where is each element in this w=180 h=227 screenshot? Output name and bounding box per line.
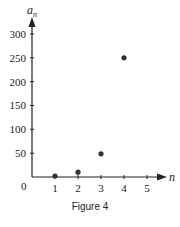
sequence-scatter-chart: an n 0 50 100 150 200 250 300 1 2 3 4 5 …	[0, 0, 180, 227]
x-axis-label: n	[169, 170, 175, 184]
figure-caption: Figure 4	[72, 201, 109, 212]
svg-text:1: 1	[52, 182, 58, 194]
y-axis-label: an	[27, 3, 37, 19]
svg-text:100: 100	[10, 123, 27, 135]
x-axis-arrow-icon	[157, 174, 167, 181]
svg-text:200: 200	[10, 76, 27, 88]
svg-text:4: 4	[121, 182, 127, 194]
data-points	[52, 55, 126, 178]
y-ticks: 50 100 150 200 250 300	[10, 28, 35, 159]
svg-text:3: 3	[98, 182, 104, 194]
svg-text:300: 300	[10, 28, 27, 40]
svg-text:2: 2	[75, 182, 81, 194]
data-point-n3	[98, 151, 103, 156]
origin-label: 0	[21, 180, 27, 192]
data-point-n2	[75, 170, 80, 175]
svg-text:50: 50	[15, 147, 27, 159]
svg-text:250: 250	[10, 52, 27, 64]
svg-text:150: 150	[10, 99, 27, 111]
data-point-n1	[52, 173, 57, 178]
x-ticks: 1 2 3 4 5	[52, 175, 150, 194]
svg-text:5: 5	[144, 182, 150, 194]
data-point-n4	[121, 55, 126, 60]
